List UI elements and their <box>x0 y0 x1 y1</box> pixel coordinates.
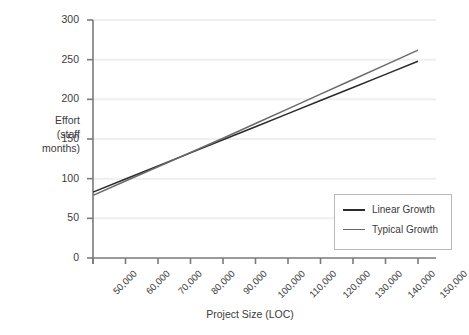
legend-item-typical-growth: Typical Growth <box>343 224 438 235</box>
legend-swatch-typical-growth <box>343 229 365 230</box>
x-axis-ticks <box>93 258 418 264</box>
y-axis-ticks <box>87 20 93 258</box>
legend-label-linear-growth: Linear Growth <box>372 204 435 215</box>
y-tick-label: 150 <box>45 133 79 144</box>
y-tick-label: 50 <box>45 212 79 223</box>
chart-legend: Linear Growth Typical Growth <box>334 194 452 250</box>
legend-label-typical-growth: Typical Growth <box>372 224 438 235</box>
data-series <box>93 50 418 195</box>
legend-item-linear-growth: Linear Growth <box>343 204 435 215</box>
x-axis-title: Project Size (LOC) <box>150 308 350 320</box>
y-tick-label: 250 <box>45 54 79 65</box>
x-tick-label: 150,000 <box>437 268 469 300</box>
y-tick-label: 300 <box>45 14 79 25</box>
legend-swatch-linear-growth <box>343 209 365 211</box>
y-tick-label: 100 <box>45 173 79 184</box>
y-tick-label: 0 <box>45 252 79 263</box>
y-tick-label: 200 <box>45 93 79 104</box>
